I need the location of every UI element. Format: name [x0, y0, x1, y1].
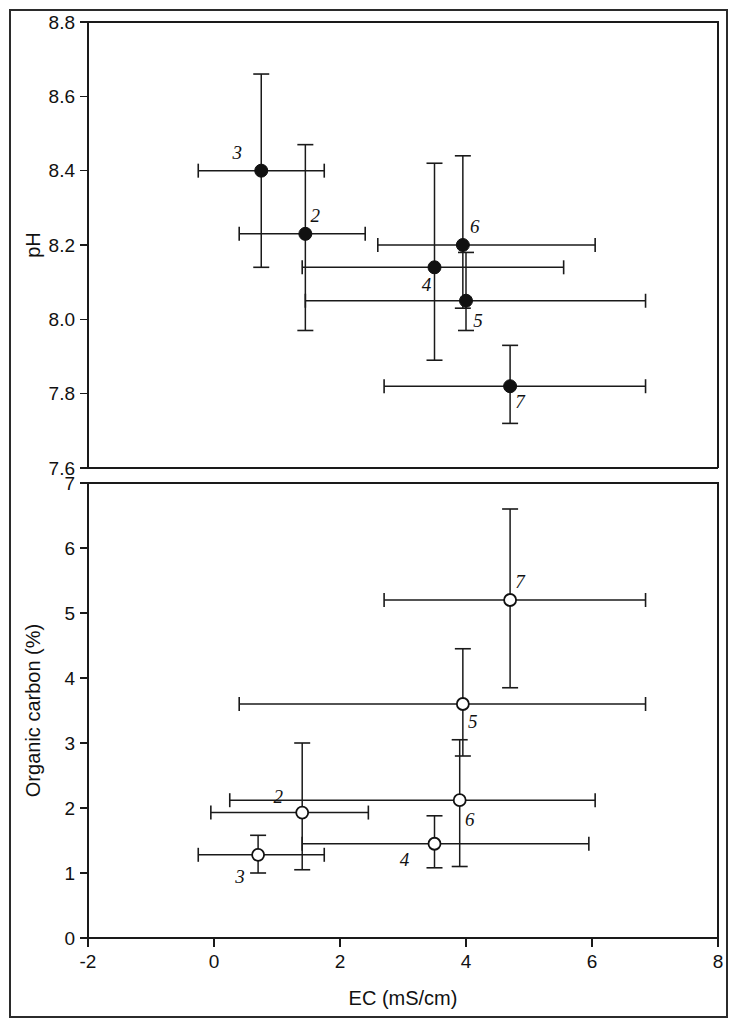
data-marker — [454, 794, 466, 806]
organic-carbon-panel-y-tick-label: 4 — [64, 668, 75, 689]
ph-panel-datapoint-6: 6 — [378, 156, 595, 308]
organic-carbon-panel-y-tick-label: 1 — [64, 863, 75, 884]
ph-panel-y-tick-label: 8.4 — [49, 160, 76, 181]
data-marker — [252, 849, 264, 861]
ph-panel-datapoint-5: 5 — [305, 252, 645, 330]
data-marker — [296, 807, 308, 819]
ph-panel-y-tick-label: 7.8 — [49, 383, 75, 404]
data-marker — [504, 594, 516, 606]
x-tick-label: 2 — [335, 951, 346, 972]
point-label-3: 3 — [232, 142, 243, 163]
x-tick-label: 6 — [587, 951, 598, 972]
point-label-6: 6 — [465, 809, 475, 830]
organic-carbon-panel-datapoint-5: 5 — [239, 649, 645, 756]
point-label-3: 3 — [234, 866, 245, 887]
data-marker — [460, 294, 473, 307]
point-label-5: 5 — [473, 310, 483, 331]
organic-carbon-panel-y-tick-label: 2 — [64, 798, 75, 819]
data-marker — [255, 164, 268, 177]
organic-carbon-panel-datapoint-4: 4 — [302, 816, 589, 870]
data-marker — [429, 838, 441, 850]
data-marker — [457, 698, 469, 710]
data-marker — [456, 239, 469, 252]
ph-panel-y-tick-label: 8.0 — [49, 309, 75, 330]
point-label-2: 2 — [311, 205, 321, 226]
organic-carbon-panel-datapoint-6: 6 — [230, 740, 595, 867]
x-tick-label: -2 — [80, 951, 97, 972]
organic-carbon-panel-y-tick-label: 6 — [64, 538, 75, 559]
point-label-7: 7 — [515, 391, 526, 412]
ph-panel-y-axis-title: pH — [22, 232, 44, 258]
organic-carbon-panel-frame — [88, 483, 718, 938]
data-marker — [299, 227, 312, 240]
organic-carbon-panel-y-tick-label: 0 — [64, 928, 75, 949]
x-tick-label: 0 — [209, 951, 220, 972]
point-label-6: 6 — [470, 216, 480, 237]
point-label-2: 2 — [273, 786, 283, 807]
point-label-4: 4 — [400, 849, 410, 870]
figure-root: 7.67.88.08.28.48.68.8pH326457 01234567Or… — [0, 0, 741, 1029]
point-label-4: 4 — [422, 274, 432, 295]
organic-carbon-panel-y-tick-label: 7 — [64, 473, 75, 494]
organic-carbon-panel-y-axis-title: Organic carbon (%) — [22, 624, 44, 797]
plot-canvas: 7.67.88.08.28.48.68.8pH326457 01234567Or… — [0, 0, 741, 1029]
ph-panel-y-tick-label: 8.6 — [49, 86, 75, 107]
x-tick-label: 8 — [713, 951, 724, 972]
organic-carbon-panel-y-tick-label: 3 — [64, 733, 75, 754]
organic-carbon-panel-datapoint-2: 2 — [211, 743, 369, 870]
point-label-5: 5 — [468, 711, 478, 732]
shared-x-axis: -202468EC (mS/cm) — [80, 938, 724, 1009]
organic-carbon-panel-y-tick-label: 5 — [64, 603, 75, 624]
ph-panel-datapoint-7: 7 — [384, 345, 645, 423]
organic-carbon-panel: 01234567Organic carbon (%)756243 — [22, 473, 718, 949]
ph-panel-y-tick-label: 8.8 — [49, 12, 75, 33]
ph-panel: 7.67.88.08.28.48.68.8pH326457 — [22, 12, 718, 479]
x-axis-title: EC (mS/cm) — [349, 987, 458, 1009]
data-marker — [428, 261, 441, 274]
point-label-7: 7 — [515, 571, 526, 592]
ph-panel-y-tick-label: 8.2 — [49, 235, 75, 256]
x-tick-label: 4 — [461, 951, 472, 972]
ph-panel-datapoint-4: 4 — [302, 163, 563, 360]
organic-carbon-panel-datapoint-7: 7 — [384, 509, 645, 688]
